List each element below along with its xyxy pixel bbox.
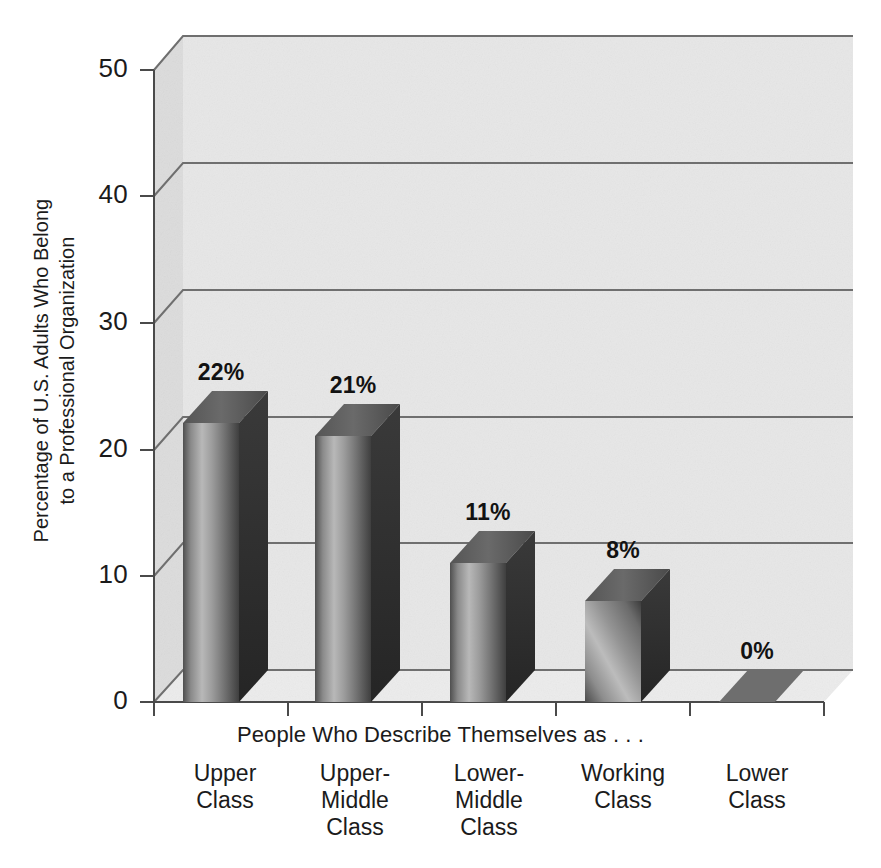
x-category-label-lower-middle-class: Lower- Middle Class (419, 760, 559, 841)
bar-front-face (585, 601, 641, 702)
bar-upper-middle-class[interactable] (315, 404, 400, 702)
y-tick-0: 0 (72, 685, 128, 716)
x-category-label-upper-middle-class: Upper- Middle Class (285, 760, 425, 841)
bar-value-label-upper-class: 22% (165, 359, 277, 386)
x-axis (154, 702, 824, 716)
y-axis (140, 70, 154, 702)
y-tick-50: 50 (72, 53, 128, 84)
bar-lower-middle-class[interactable] (450, 531, 535, 702)
bar-chart: 50 40 30 20 10 0 22% 21% 11% 8% 0% Peopl… (0, 0, 881, 868)
bar-value-label-lower-class: 0% (701, 638, 813, 665)
bar-side-face (371, 404, 400, 702)
y-axis-title: Percentage of U.S. Adults Who Belong to … (29, 111, 80, 631)
bar-front-face (315, 436, 371, 702)
x-category-label-working-class: Working Class (553, 760, 693, 814)
x-category-label-upper-class: Upper Class (155, 760, 295, 814)
bar-working-class[interactable] (585, 569, 670, 702)
bar-value-label-lower-middle-class: 11% (432, 499, 544, 526)
bar-front-face (183, 423, 239, 702)
x-axis-title: People Who Describe Themselves as . . . (0, 722, 881, 748)
bar-side-face (239, 391, 268, 702)
bar-front-face (450, 563, 506, 702)
bar-value-label-working-class: 8% (567, 537, 679, 564)
bar-value-label-upper-middle-class: 21% (297, 372, 409, 399)
x-category-label-lower-class: Lower Class (687, 760, 827, 814)
bar-upper-class[interactable] (183, 391, 268, 702)
